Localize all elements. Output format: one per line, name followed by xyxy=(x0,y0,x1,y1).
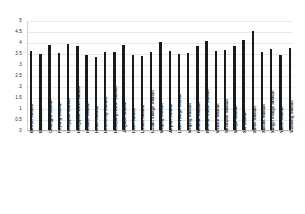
y-axis-tick-label: 5 xyxy=(19,19,22,24)
x-axis-tick-label: Xingyi Village Station xyxy=(271,90,275,133)
x-axis-tick-label: Meilian Station xyxy=(216,103,220,133)
x-axis-label-slot: Fuyong Station xyxy=(57,133,59,212)
x-axis-label-slot: Changpo Station xyxy=(48,133,50,212)
y-axis-tick-label: 3.5 xyxy=(15,52,22,57)
y-axis-tick-label: 3 xyxy=(19,63,22,68)
y-axis-tick-label: 1 xyxy=(19,107,22,112)
x-axis-tick-label: Hualian Station xyxy=(86,102,90,133)
x-axis-tick-label: Meijing Station xyxy=(188,103,192,133)
x-axis-tick-label: Changpo Station xyxy=(49,99,53,133)
x-axis-label-slot: Renmin South Station xyxy=(205,133,207,212)
x-axis-label-slot: Meijing Station xyxy=(187,133,189,212)
x-axis-label-slot: Bihu Station xyxy=(38,133,40,212)
y-axis-tick-label: 0 xyxy=(19,129,22,134)
x-axis-tick-label: Weijin Station xyxy=(234,105,238,133)
y-axis-tick-label: 2.5 xyxy=(15,74,22,79)
bar-chart: 00.511.522.533.544.55 Bao'an StationBihu… xyxy=(0,0,305,214)
x-axis-label-slot: Meilian Station xyxy=(214,133,216,212)
x-axis-tick-label: Luohu Station xyxy=(141,105,145,133)
x-axis-tick-label: Xili Station xyxy=(243,111,247,133)
x-axis-label-slot: Xingyi Village Station xyxy=(270,133,272,212)
x-axis-tick-label: Lixin Station xyxy=(132,108,136,133)
x-axis-tick-label: Meijing Station xyxy=(160,103,164,133)
x-axis-tick-label: Huocheng Station xyxy=(104,97,108,133)
x-axis-label-slot: Xinhe Station xyxy=(251,133,253,212)
y-axis: 00.511.522.533.544.55 xyxy=(0,21,25,131)
x-axis-label-slot: Hongqiao Station xyxy=(66,133,68,212)
x-axis-labels: Bao'an StationBihu StationChangpo Statio… xyxy=(27,133,293,212)
x-axis-label-slot: Lixin Village Station xyxy=(177,133,179,212)
x-axis-label-slot: Luohu Station xyxy=(140,133,142,212)
x-axis-tick-label: Yuanling Station xyxy=(290,100,294,133)
x-axis-label-slot: Xili Station xyxy=(242,133,244,212)
x-axis-label-slot: Hubin Station xyxy=(94,133,96,212)
y-axis-tick-label: 4 xyxy=(19,41,22,46)
y-axis-tick-label: 2 xyxy=(19,85,22,90)
x-axis-label-slot: Huocheng Station xyxy=(103,133,105,212)
x-axis-tick-label: Shenwan Station xyxy=(225,99,229,133)
x-axis-tick-label: Luobu Village Station xyxy=(151,90,155,133)
x-axis-tick-label: Renmin Station xyxy=(197,102,201,133)
x-axis-tick-label: Fuyong Station xyxy=(58,102,62,133)
x-axis-label-slot: Yuanling Station xyxy=(288,133,290,212)
x-axis-tick-label: Bao'an Station xyxy=(30,104,34,133)
x-axis-tick-label: Renmin South Station xyxy=(206,89,210,133)
x-axis-label-slot: Weijin Station xyxy=(233,133,235,212)
x-axis-tick-label: Huaqiang North Station xyxy=(114,86,118,133)
x-axis-label-slot: Hongqiao North Station xyxy=(75,133,77,212)
x-axis-label-slot: Jingtian Station xyxy=(122,133,124,212)
x-axis-label-slot: Huaqiang North Station xyxy=(112,133,114,212)
x-axis-label-slot: Hualian Station xyxy=(85,133,87,212)
x-axis-label-slot: Lixin Station xyxy=(131,133,133,212)
x-axis-tick-label: Hubin Station xyxy=(95,106,99,133)
y-axis-tick-label: 4.5 xyxy=(15,30,22,35)
x-axis-label-slot: Shenwan Station xyxy=(224,133,226,212)
x-axis-label-slot: Bao'an Station xyxy=(29,133,31,212)
y-axis-tick-label: 0.5 xyxy=(15,118,22,123)
x-axis-label-slot: Luobu Village Station xyxy=(149,133,151,212)
y-axis-tick-label: 1.5 xyxy=(15,96,22,101)
x-axis-tick-label: Bihu Station xyxy=(39,108,43,133)
x-axis-tick-label: Lixin Village Station xyxy=(178,93,182,133)
x-axis-label-slot: Airport Station xyxy=(168,133,170,212)
x-axis-label-slot: Xiasha Station xyxy=(261,133,263,212)
x-axis-tick-label: Xinhe Station xyxy=(253,106,257,133)
x-axis-tick-label: Yinhe Station xyxy=(280,106,284,133)
x-axis-tick-label: Airport Station xyxy=(169,104,173,133)
x-axis-label-slot: Meijing Station xyxy=(159,133,161,212)
x-axis-label-slot: Yinhe Station xyxy=(279,133,281,212)
x-axis-label-slot: Renmin Station xyxy=(196,133,198,212)
x-axis-tick-label: Hongqiao Station xyxy=(67,98,71,133)
x-axis-tick-label: Hongqiao North Station xyxy=(77,86,81,133)
x-axis-tick-label: Xiasha Station xyxy=(262,104,266,133)
x-axis-tick-label: Jingtian Station xyxy=(123,102,127,133)
